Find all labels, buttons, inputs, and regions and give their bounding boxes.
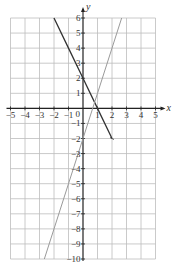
y-tick-label: 5: [76, 28, 81, 38]
y-tick-label: −8: [71, 224, 81, 234]
y-tick-label: −10: [66, 254, 81, 264]
x-tick-label: 4: [139, 110, 144, 120]
y-tick-label: −9: [71, 239, 81, 249]
y-tick-label: 4: [76, 43, 81, 53]
x-tick-label: 1: [95, 110, 100, 120]
y-tick-label: 3: [76, 58, 81, 68]
y-tick-label: −3: [71, 149, 81, 159]
y-axis-arrow-icon: [81, 7, 85, 12]
axes: [7, 7, 166, 261]
y-tick-label: 1: [76, 88, 81, 98]
x-tick-label: −2: [49, 110, 59, 120]
x-tick-label: −4: [20, 110, 30, 120]
y-tick-label: −2: [71, 134, 81, 144]
x-tick-label: −3: [35, 110, 45, 120]
tick-labels: xy−5−4−3−2−1123450−10−9−8−7−6−5−4−3−2−11…: [6, 1, 172, 264]
y-tick-label: 6: [76, 13, 81, 23]
y-tick-label: −5: [71, 179, 81, 189]
x-tick-label: 2: [110, 110, 115, 120]
y-tick-label: −4: [71, 164, 81, 174]
y-tick-label: −1: [71, 118, 81, 128]
y-tick-label: 2: [76, 73, 81, 83]
x-axis-arrow-icon: [161, 106, 166, 110]
x-tick-label: 5: [153, 110, 158, 120]
y-tick-label: −7: [71, 209, 81, 219]
coordinate-graph: xy−5−4−3−2−1123450−10−9−8−7−6−5−4−3−2−11…: [0, 0, 172, 272]
x-axis-label: x: [166, 102, 172, 113]
y-axis-label: y: [85, 1, 91, 12]
y-tick-label: −6: [71, 194, 81, 204]
x-tick-label: −5: [6, 110, 16, 120]
x-tick-label: 3: [124, 110, 129, 120]
